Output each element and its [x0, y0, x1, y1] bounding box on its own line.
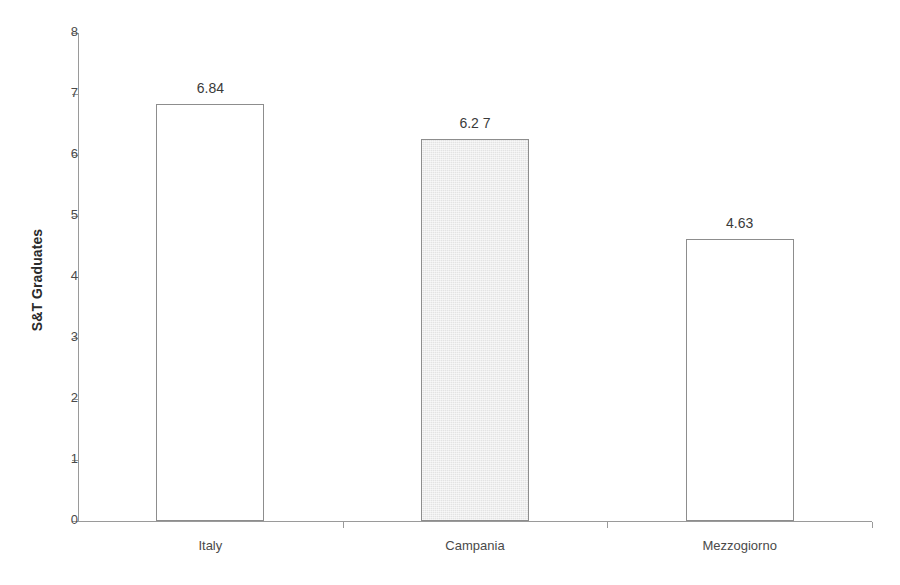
y-tick-label: 4: [38, 268, 78, 283]
y-tick-label: 5: [38, 207, 78, 222]
y-tick-label: 1: [38, 451, 78, 466]
y-tick: 7: [0, 94, 78, 95]
bar-mezzogiorno[interactable]: [686, 239, 794, 521]
bar-campania[interactable]: [421, 139, 529, 521]
y-tick: 1: [0, 460, 78, 461]
y-tick: 2: [0, 399, 78, 400]
y-tick: 3: [0, 338, 78, 339]
bar-italy[interactable]: [156, 104, 264, 521]
bar-value-label: 4.63: [680, 215, 800, 231]
bar-chart: S&T Graduates 876543210 6.84Italy6.2 7Ca…: [0, 0, 900, 585]
y-axis-line: [78, 33, 79, 522]
x-tick-mark: [343, 522, 344, 528]
x-category-label: Mezzogiorno: [650, 538, 830, 553]
y-tick: 4: [0, 277, 78, 278]
y-tick: 5: [0, 216, 78, 217]
y-tick-label: 3: [38, 329, 78, 344]
x-tick-mark: [607, 522, 608, 528]
y-tick: 0: [0, 521, 78, 522]
y-tick-label: 8: [38, 24, 78, 39]
y-tick-label: 0: [38, 512, 78, 527]
bar-value-label: 6.2 7: [415, 115, 535, 131]
y-tick-label: 6: [38, 146, 78, 161]
x-tick-mark: [872, 522, 873, 528]
x-category-label: Italy: [120, 538, 300, 553]
y-tick: 6: [0, 155, 78, 156]
bar-value-label: 6.84: [150, 80, 270, 96]
y-tick-label: 2: [38, 390, 78, 405]
y-tick: 8: [0, 33, 78, 34]
y-tick-label: 7: [38, 85, 78, 100]
x-axis-line: [78, 521, 872, 522]
x-category-label: Campania: [385, 538, 565, 553]
